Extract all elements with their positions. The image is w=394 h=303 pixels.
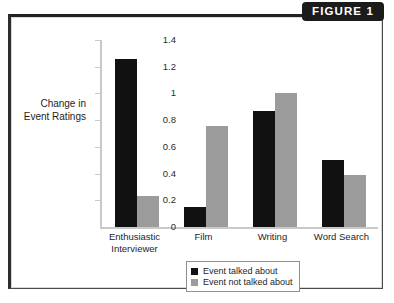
y-axis-title-line-1: Change in [14, 98, 86, 111]
y-axis-tick-mark [95, 200, 100, 201]
x-axis-category-label: Word Search [293, 231, 390, 243]
bar [322, 160, 344, 227]
plot-area: 00.20.40.60.811.21.4 [100, 40, 378, 228]
y-axis-title-line-2: Event Ratings [14, 111, 86, 124]
bar [184, 207, 206, 227]
bar [137, 196, 159, 227]
bar [344, 175, 366, 227]
y-axis-tick-mark [95, 120, 100, 121]
legend-swatch [191, 279, 198, 286]
x-axis-category-labels: EnthusiasticInterviewerFilmWritingWord S… [100, 231, 380, 259]
bar-group-container [102, 40, 378, 227]
bar [275, 93, 297, 227]
bar [253, 111, 275, 227]
bar [115, 59, 137, 227]
y-axis-tick-mark [95, 147, 100, 148]
y-axis-tick-mark [95, 40, 100, 41]
bar [206, 126, 228, 228]
x-axis-category-label-line: Interviewer [86, 243, 183, 255]
y-axis-title: Change in Event Ratings [14, 98, 86, 123]
legend-label: Event not talked about [203, 277, 293, 287]
legend-item: Event not talked about [191, 277, 293, 287]
y-axis-tick-mark [95, 93, 100, 94]
figure-number-label: FIGURE 1 [312, 6, 374, 18]
legend-swatch [191, 268, 198, 275]
legend-item: Event talked about [191, 266, 293, 276]
chart-legend: Event talked aboutEvent not talked about [186, 261, 300, 292]
y-axis-tick-mark [95, 174, 100, 175]
figure-panel: FIGURE 1 Change in Event Ratings 00.20.4… [0, 0, 394, 303]
y-axis-tick-mark [95, 67, 100, 68]
x-axis-category-label-line: Word Search [293, 231, 390, 243]
legend-label: Event talked about [203, 266, 278, 276]
figure-number-banner: FIGURE 1 [302, 2, 384, 21]
